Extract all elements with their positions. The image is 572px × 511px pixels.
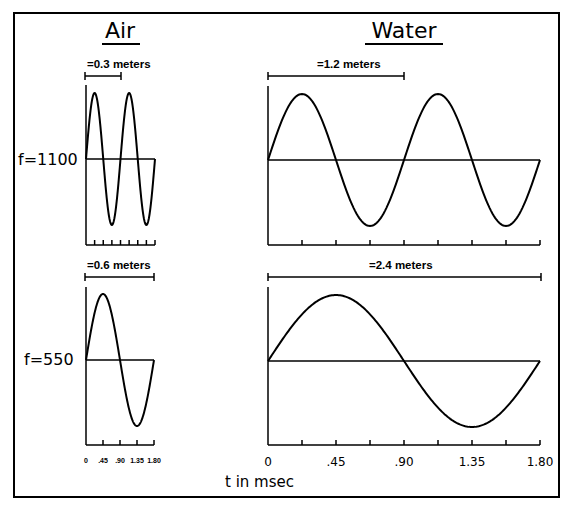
wavelength-label: =0.3 meters (87, 58, 151, 70)
wavelength-label: =1.2 meters (317, 58, 381, 70)
tick-label: .90 (394, 455, 413, 469)
tick-label: .90 (115, 457, 125, 464)
wavelength-label: =0.6 meters (87, 259, 151, 271)
water-top-plot: =1.2 meters (268, 58, 540, 245)
freq-label-bottom: f=550 (24, 350, 74, 369)
frame (14, 13, 559, 497)
tick-label: 1.35 (130, 457, 144, 464)
tick-label: 1.80 (527, 455, 554, 469)
tick-label: 0 (264, 455, 272, 469)
air-bottom-plot: =0.6 meters 0 .45 .90 1.35 1.80 (84, 259, 161, 464)
tick-label: .45 (98, 457, 108, 464)
water-title: Water (371, 18, 437, 43)
diagram-canvas: Air Water f=1100 f=550 =0.3 meters =1.2 … (0, 0, 572, 511)
water-bottom-plot: =2.4 meters 0 .45 .90 1.35 1.80 (264, 259, 553, 469)
tick-label: 0 (84, 457, 88, 464)
tick-label: 1.35 (459, 455, 486, 469)
freq-label-top: f=1100 (18, 150, 78, 169)
tick-label: .45 (326, 455, 345, 469)
air-title: Air (105, 18, 136, 43)
air-top-plot: =0.3 meters (85, 58, 155, 245)
x-axis-label: t in msec (225, 473, 294, 491)
wavelength-label: =2.4 meters (369, 259, 433, 271)
tick-label: 1.80 (147, 457, 161, 464)
